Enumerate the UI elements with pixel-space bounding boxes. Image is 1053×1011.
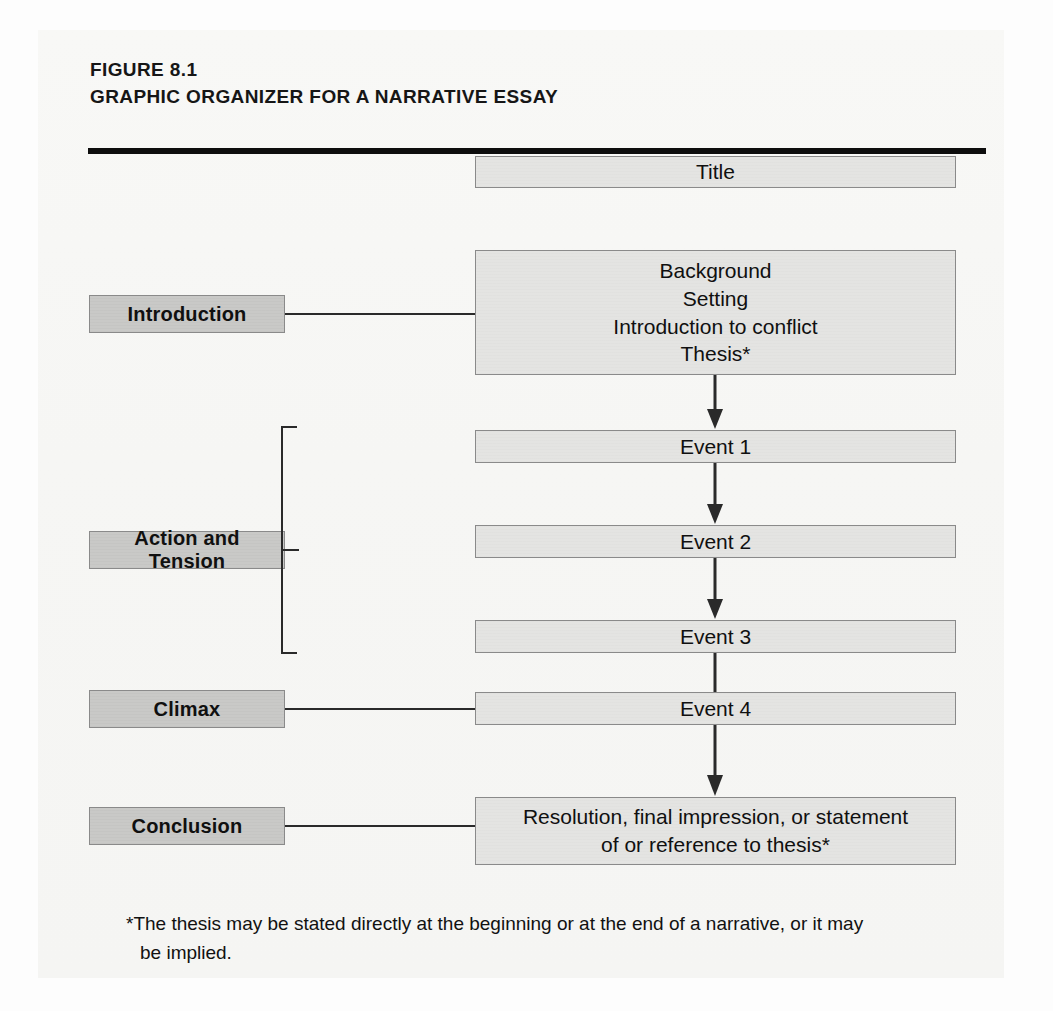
content-box-introduction: Background Setting Introduction to confl…: [475, 250, 956, 375]
content-box-conclusion: Resolution, final impression, or stateme…: [475, 797, 956, 865]
content-box-event-2: Event 2: [475, 525, 956, 558]
stage-label-action-and-tension-text: Action and Tension: [90, 527, 284, 573]
stage-label-action-and-tension: Action and Tension: [89, 531, 285, 569]
footnote-line-2: be implied.: [126, 939, 956, 968]
header-rule: [88, 148, 986, 154]
content-box-event-3-text: Event 3: [672, 623, 759, 651]
flow-arrow-down-icon: [704, 725, 726, 797]
stage-label-introduction-text: Introduction: [119, 303, 254, 326]
figure-title: GRAPHIC ORGANIZER FOR A NARRATIVE ESSAY: [90, 84, 790, 111]
content-box-conclusion-text: Resolution, final impression, or stateme…: [515, 803, 916, 858]
content-box-introduction-text: Background Setting Introduction to confl…: [605, 257, 825, 368]
stage-label-conclusion: Conclusion: [89, 807, 285, 845]
content-box-event-2-text: Event 2: [672, 528, 759, 556]
content-box-event-3: Event 3: [475, 620, 956, 653]
stage-label-climax-text: Climax: [146, 698, 229, 721]
content-box-event-1: Event 1: [475, 430, 956, 463]
grouping-bracket: [279, 426, 299, 654]
title-box: Title: [475, 156, 956, 188]
connector-climax: [285, 708, 475, 710]
content-box-climax-text: Event 4: [672, 695, 759, 723]
connector-conclusion: [285, 825, 475, 827]
flow-arrow-down-icon: [704, 463, 726, 525]
stage-label-climax: Climax: [89, 690, 285, 728]
content-box-climax: Event 4: [475, 692, 956, 725]
figure-header: FIGURE 8.1 GRAPHIC ORGANIZER FOR A NARRA…: [90, 57, 790, 111]
connector-introduction: [285, 313, 475, 315]
figure-page: FIGURE 8.1 GRAPHIC ORGANIZER FOR A NARRA…: [0, 0, 1053, 1011]
footnote-line-1: *The thesis may be stated directly at th…: [126, 910, 956, 939]
stage-label-conclusion-text: Conclusion: [124, 815, 251, 838]
footnote: *The thesis may be stated directly at th…: [126, 910, 956, 968]
figure-number: FIGURE 8.1: [90, 57, 790, 84]
scanned-page-panel: FIGURE 8.1 GRAPHIC ORGANIZER FOR A NARRA…: [38, 30, 1004, 978]
stage-label-introduction: Introduction: [89, 295, 285, 333]
content-box-event-1-text: Event 1: [672, 433, 759, 461]
title-box-label: Title: [688, 158, 743, 186]
flow-arrow-down-icon: [704, 375, 726, 430]
flow-arrow-down-icon: [704, 558, 726, 620]
